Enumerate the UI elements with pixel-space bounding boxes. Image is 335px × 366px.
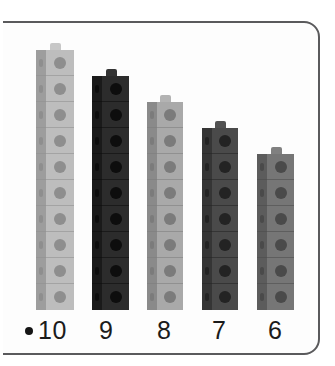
snap-cube <box>92 180 129 206</box>
cube-side-slot <box>205 267 209 275</box>
cube-hole-icon <box>164 109 176 121</box>
cube-side-face <box>92 102 102 128</box>
cube-side-face <box>92 258 102 284</box>
cube-side-slot <box>150 111 154 119</box>
cube-front-face <box>212 232 238 258</box>
cube-side-slot <box>39 189 43 197</box>
cube-hole-icon <box>219 213 231 225</box>
snap-cube <box>92 258 129 284</box>
cube-front-face <box>46 180 74 206</box>
cube-side-slot <box>95 163 99 171</box>
cube-hole-icon <box>219 239 231 251</box>
snap-cube <box>202 128 238 154</box>
cube-front-face <box>157 154 183 180</box>
snap-cube <box>36 284 74 310</box>
cube-hole-icon <box>164 135 176 147</box>
cube-side-slot <box>205 163 209 171</box>
snap-cube <box>202 232 238 258</box>
cube-side-face <box>202 258 212 284</box>
cube-side-face <box>257 232 267 258</box>
cube-side-face <box>257 206 267 232</box>
snap-cube <box>36 154 74 180</box>
cube-side-slot <box>150 215 154 223</box>
cube-front-face <box>102 258 129 284</box>
cube-side-face <box>147 232 157 258</box>
cube-side-slot <box>95 293 99 301</box>
cube-side-face <box>36 128 46 154</box>
cube-front-face <box>157 128 183 154</box>
cube-hole-icon <box>110 187 122 199</box>
snap-cube <box>92 76 129 102</box>
cube-side-face <box>147 180 157 206</box>
snap-cube <box>202 206 238 232</box>
cube-side-face <box>92 154 102 180</box>
cube-side-slot <box>205 293 209 301</box>
cube-front-face <box>46 284 74 310</box>
tower-label-9: 9 <box>99 313 113 347</box>
cube-tower-9 <box>92 76 129 310</box>
cube-front-face <box>102 206 129 232</box>
cube-side-face <box>92 76 102 102</box>
cube-side-slot <box>205 215 209 223</box>
cube-side-face <box>202 206 212 232</box>
cube-front-face <box>102 128 129 154</box>
cube-hole-icon <box>164 265 176 277</box>
cube-front-face <box>46 206 74 232</box>
cube-hole-icon <box>164 213 176 225</box>
cube-hole-icon <box>164 161 176 173</box>
cube-front-face <box>102 284 129 310</box>
cube-hole-icon <box>219 291 231 303</box>
cube-towers-group <box>0 0 335 366</box>
cube-hole-icon <box>219 135 231 147</box>
cube-hole-icon <box>110 83 122 95</box>
cube-tower-10 <box>36 50 74 310</box>
cube-side-slot <box>150 163 154 171</box>
cube-hole-icon <box>110 109 122 121</box>
cube-side-face <box>257 180 267 206</box>
snap-cube <box>92 102 129 128</box>
cube-front-face <box>157 284 183 310</box>
cube-front-face <box>102 76 129 102</box>
cube-side-slot <box>39 267 43 275</box>
cube-front-face <box>46 232 74 258</box>
photo-scene: 109876 <box>0 0 335 366</box>
snap-cube <box>36 258 74 284</box>
cube-side-slot <box>205 189 209 197</box>
cube-hole-icon <box>110 265 122 277</box>
cube-front-face <box>212 258 238 284</box>
snap-cube <box>36 232 74 258</box>
cube-side-face <box>36 102 46 128</box>
cube-hole-icon <box>219 161 231 173</box>
cube-side-face <box>257 284 267 310</box>
tower-labels-row: 109876 <box>0 313 335 347</box>
cube-side-slot <box>150 137 154 145</box>
cube-front-face <box>46 128 74 154</box>
cube-side-face <box>36 154 46 180</box>
cube-front-face <box>46 102 74 128</box>
cube-hole-icon <box>54 291 66 303</box>
cube-front-face <box>102 232 129 258</box>
cube-hole-icon <box>110 213 122 225</box>
cube-front-face <box>267 154 294 180</box>
cube-side-slot <box>95 137 99 145</box>
cube-side-face <box>36 284 46 310</box>
cube-side-face <box>202 284 212 310</box>
cube-front-face <box>46 50 74 76</box>
cube-front-face <box>157 180 183 206</box>
cube-hole-icon <box>164 187 176 199</box>
cube-side-face <box>147 206 157 232</box>
cube-side-face <box>92 284 102 310</box>
cube-front-face <box>267 180 294 206</box>
cube-hole-icon <box>110 135 122 147</box>
cube-front-face <box>212 128 238 154</box>
cube-front-face <box>267 232 294 258</box>
cube-hole-icon <box>164 239 176 251</box>
cube-side-face <box>36 76 46 102</box>
snap-cube <box>257 284 294 310</box>
cube-hole-icon <box>219 265 231 277</box>
cube-side-face <box>92 128 102 154</box>
cube-side-face <box>257 154 267 180</box>
snap-cube <box>147 180 183 206</box>
cube-side-slot <box>39 59 43 67</box>
cube-side-slot <box>39 137 43 145</box>
